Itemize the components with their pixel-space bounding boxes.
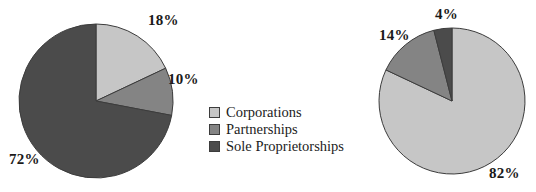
pie-charts-canvas	[0, 0, 536, 192]
left-pie-label-corporations: 18%	[148, 13, 179, 28]
legend-item-sole-proprietorships: Sole Proprietorships	[209, 138, 359, 155]
left-pie-label-partnerships: 10%	[168, 72, 199, 87]
legend-item-partnerships: Partnerships	[209, 121, 359, 138]
legend-label-partnerships: Partnerships	[226, 122, 298, 137]
left-pie-label-sole-proprietorships: 72%	[9, 152, 40, 167]
legend-swatch-sole-proprietorships-icon	[209, 141, 220, 152]
legend-swatch-partnerships-icon	[209, 124, 220, 135]
legend-swatch-corporations-icon	[209, 107, 220, 118]
right-pie-label-sole-proprietorships: 4%	[435, 7, 458, 22]
legend: Corporations Partnerships Sole Proprieto…	[209, 104, 359, 155]
right-pie	[379, 28, 525, 174]
legend-label-corporations: Corporations	[226, 105, 302, 120]
right-pie-label-corporations: 82%	[489, 166, 520, 181]
legend-label-sole-proprietorships: Sole Proprietorships	[226, 139, 344, 154]
right-pie-label-partnerships: 14%	[379, 28, 410, 43]
legend-item-corporations: Corporations	[209, 104, 359, 121]
left-pie	[19, 24, 173, 178]
pie-chart-figure: 18% 10% 72% 4% 14% 82% Corporations Part…	[0, 0, 536, 192]
